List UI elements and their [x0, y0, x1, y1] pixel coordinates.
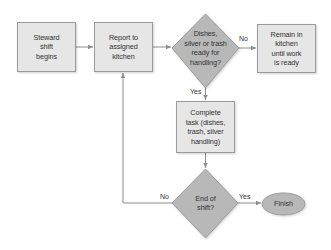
node-complete-label: Complete task (dishes, trash, silver han… — [176, 101, 235, 153]
edge-label-ready-no: No — [239, 35, 248, 42]
edge-label-ready-yes: Yes — [190, 88, 201, 95]
edge-label-end-no: No — [160, 193, 169, 200]
node-report-label: Report to assigned kitchen — [94, 22, 153, 72]
node-remain-label: Remain in kitchen until work is ready — [257, 24, 316, 73]
node-start-label: Steward shift begins — [17, 22, 76, 72]
node-end-check-label: End of shift? — [180, 190, 231, 216]
edge-end-check-loop-to-report — [123, 73, 172, 203]
edge-label-end-yes: Yes — [239, 193, 250, 200]
node-ready-check-label: Dishes, silver or trash ready for handli… — [172, 20, 239, 76]
node-finish-label: Finish — [262, 193, 305, 215]
